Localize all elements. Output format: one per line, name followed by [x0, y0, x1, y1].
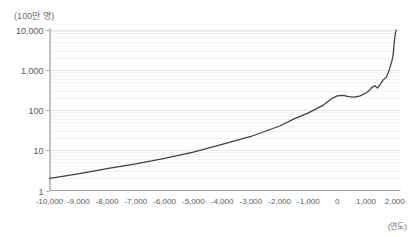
x-tick-label: -9,000	[67, 197, 90, 206]
x-tick-label: 1,000	[356, 197, 377, 206]
y-tick-label: 10	[33, 146, 43, 156]
chart-plot-area: 1101001,00010,000 -10,000-9,000-8,000-7,…	[0, 0, 411, 237]
y-tick-label: 100	[28, 106, 43, 116]
x-axis-unit-label: (연도)	[388, 220, 407, 231]
x-tick-label: -2,000	[268, 197, 291, 206]
x-tick-label: -3,000	[240, 197, 263, 206]
x-tick-label: -5,000	[182, 197, 205, 206]
y-tick-label: 10,000	[16, 26, 44, 36]
x-tick-label: -7,000	[124, 197, 147, 206]
x-tick-label: -8,000	[96, 197, 119, 206]
y-axis-tick-labels: 1101001,00010,000	[16, 26, 44, 197]
population-log-chart: (100만 명) 1101001,00010,000 -10,000-9,000…	[0, 0, 411, 237]
y-tick-label: 1	[38, 187, 43, 197]
minor-gridlines	[50, 32, 401, 179]
x-tick-label: -1,000	[297, 197, 320, 206]
x-tick-label: -10,000	[36, 197, 64, 206]
x-axis-tick-labels: -10,000-9,000-8,000-7,000-6,000-5,000-4,…	[36, 197, 405, 206]
x-tick-label: 2,000	[385, 197, 406, 206]
major-gridlines	[50, 31, 401, 151]
y-tick-label: 1,000	[21, 66, 44, 76]
x-tick-label: 0	[335, 197, 340, 206]
x-tick-label: -4,000	[211, 197, 234, 206]
x-tick-label: -6,000	[153, 197, 176, 206]
